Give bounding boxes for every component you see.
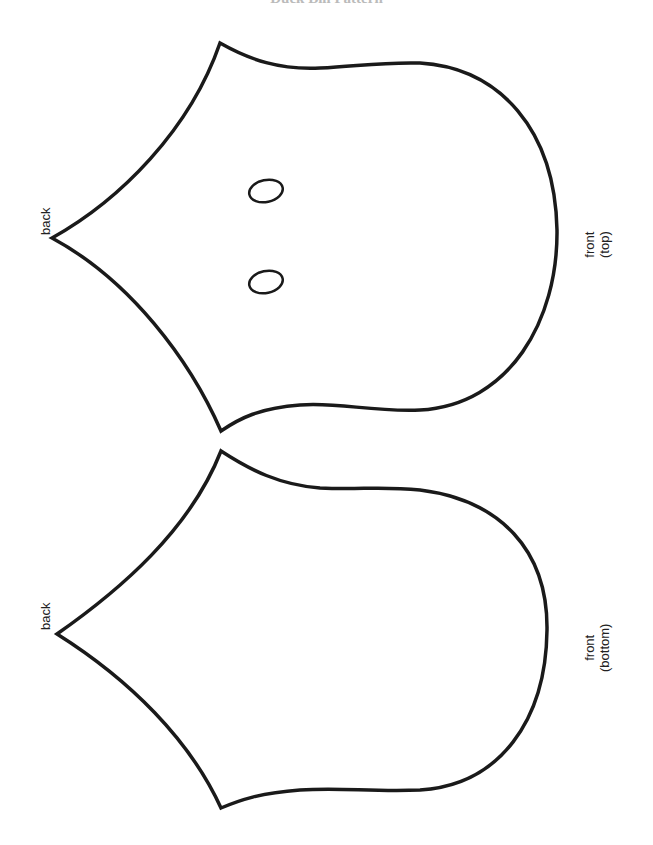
front-label-bottom: front (bottom) (582, 624, 612, 672)
front-label-line2: (top) (597, 231, 612, 258)
front-label-line1: front (582, 231, 597, 258)
bill-bottom-outline (57, 451, 547, 808)
back-label-bottom: back (38, 603, 53, 630)
pattern-drawing (0, 0, 653, 845)
nostril-icon (247, 268, 285, 297)
nostril-icon (247, 177, 285, 206)
front-label-top: front (top) (582, 231, 612, 258)
front-label-line2: (bottom) (597, 624, 612, 672)
back-label-top: back (38, 208, 53, 235)
front-label-line1: front (582, 624, 597, 672)
bill-top-outline (52, 43, 557, 431)
